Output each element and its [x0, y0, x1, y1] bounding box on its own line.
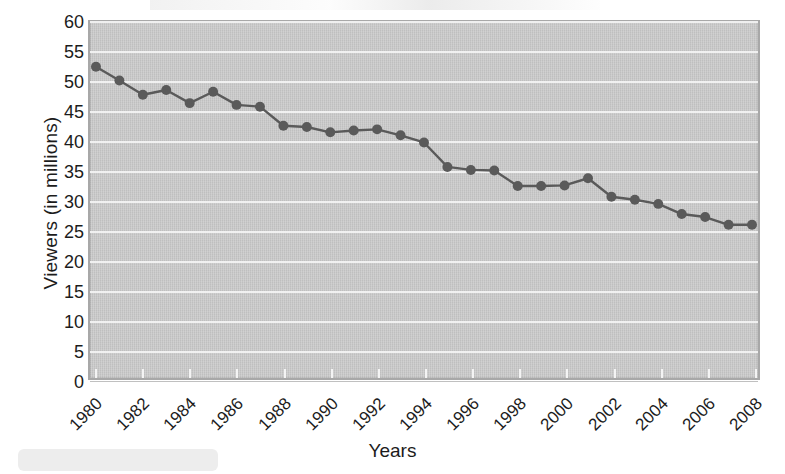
data-point	[606, 192, 616, 202]
x-axis-tick-label: 2008	[726, 394, 767, 435]
data-point	[302, 122, 312, 132]
data-point	[630, 195, 640, 205]
scan-artifact-top	[150, 0, 600, 10]
y-axis-tick-label: 40	[64, 132, 84, 153]
y-axis-tick-label: 5	[74, 342, 84, 363]
y-axis-tick-label: 25	[64, 222, 84, 243]
data-point	[560, 180, 570, 190]
data-point	[114, 75, 124, 85]
x-axis-tick-label: 2004	[631, 394, 672, 435]
x-axis-tick-label: 1988	[254, 394, 295, 435]
y-axis-tick-label: 50	[64, 72, 84, 93]
data-point	[442, 162, 452, 172]
line-chart-figure: Viewers (in millions) 051015202530354045…	[0, 0, 785, 474]
x-axis-tick-label: 1982	[113, 394, 154, 435]
x-axis-tick-label: 1990	[301, 394, 342, 435]
y-axis-tick-label: 10	[64, 312, 84, 333]
data-point	[700, 212, 710, 222]
data-point	[747, 220, 757, 230]
x-axis-tick-label: 1996	[443, 394, 484, 435]
data-point	[232, 100, 242, 110]
data-point	[724, 220, 734, 230]
data-series-viewers	[90, 22, 758, 380]
y-axis-tick-label: 20	[64, 252, 84, 273]
plot-area	[88, 20, 760, 380]
data-point	[396, 130, 406, 140]
data-point	[372, 124, 382, 134]
data-point	[278, 121, 288, 131]
x-axis-tick-label: 1984	[160, 394, 201, 435]
x-axis-tick-label: 2002	[584, 394, 625, 435]
data-point	[138, 90, 148, 100]
x-axis-tick-label: 2000	[537, 394, 578, 435]
data-point	[513, 181, 523, 191]
y-axis-tick-label: 55	[64, 42, 84, 63]
scan-artifact-block	[18, 449, 218, 471]
x-axis-tick-label: 1986	[207, 394, 248, 435]
x-axis-tick-label: 1980	[66, 394, 107, 435]
y-axis-tick-label: 0	[74, 372, 84, 393]
data-point	[489, 166, 499, 176]
data-point	[185, 98, 195, 108]
gridline	[90, 381, 758, 382]
x-axis-tick-label: 1998	[490, 394, 531, 435]
data-point	[466, 165, 476, 175]
y-axis-tick-label: 15	[64, 282, 84, 303]
data-point	[677, 209, 687, 219]
data-point	[255, 102, 265, 112]
x-axis-tick-label: 1992	[349, 394, 390, 435]
data-point	[91, 62, 101, 72]
y-axis-tick-label: 30	[64, 192, 84, 213]
data-point	[653, 199, 663, 209]
x-axis-tick-label: 2006	[679, 394, 720, 435]
y-axis-tick-label: 45	[64, 102, 84, 123]
data-point	[536, 181, 546, 191]
y-axis-tick-label: 60	[64, 12, 84, 33]
data-point	[325, 127, 335, 137]
x-axis-tick-label: 1994	[396, 394, 437, 435]
data-point	[349, 126, 359, 136]
data-point	[208, 87, 218, 97]
y-axis-tick-labels: 051015202530354045505560	[48, 22, 84, 378]
data-point	[583, 173, 593, 183]
data-point	[161, 85, 171, 95]
data-point	[419, 138, 429, 148]
y-axis-tick-label: 35	[64, 162, 84, 183]
x-axis-tick-labels: 1980198219841986198819901992199419961998…	[88, 384, 760, 446]
